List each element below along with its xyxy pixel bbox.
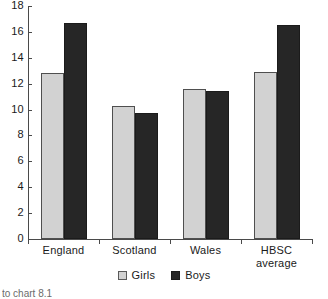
- bar-hbsc-average-girls: [254, 72, 277, 239]
- x-axis-label-wales: Wales: [170, 244, 241, 257]
- square-black-icon: [171, 271, 180, 280]
- bar-scotland-girls: [112, 106, 135, 239]
- bar-england-boys: [64, 23, 87, 239]
- bar-england-girls: [41, 73, 64, 239]
- plot-area: [28, 6, 312, 239]
- y-axis-tick-label: 4: [0, 181, 24, 192]
- y-axis-tick-label: 12: [0, 78, 24, 89]
- y-axis-tick-label: 10: [0, 104, 24, 115]
- legend-label-girls: Girls: [132, 270, 156, 281]
- x-axis-label-line: Scotland: [112, 244, 156, 256]
- y-axis-tick-label: 2: [0, 207, 24, 218]
- bar-wales-girls: [183, 89, 206, 239]
- square-light-gray-icon: [118, 271, 127, 280]
- y-axis-tick-label: 0: [0, 233, 24, 244]
- x-axis-label-scotland: Scotland: [99, 244, 170, 257]
- y-axis-tick-label: 16: [0, 26, 24, 37]
- bar-chart: 024681012141618 EnglandScotlandWalesHBSC…: [0, 0, 328, 299]
- y-axis-tick-label: 8: [0, 129, 24, 140]
- x-axis-label-line: HBSC: [261, 244, 292, 256]
- y-axis-tick-label: 14: [0, 52, 24, 63]
- x-axis-label-england: England: [28, 244, 99, 257]
- x-axis-label-line: Wales: [190, 244, 221, 256]
- y-axis-tick-label: 6: [0, 155, 24, 166]
- bar-scotland-boys: [135, 113, 158, 239]
- x-axis-label-hbsc-average: HBSCaverage: [241, 244, 312, 269]
- legend-label-boys: Boys: [185, 270, 210, 281]
- x-axis-label-line: England: [43, 244, 85, 256]
- legend-item-girls: Girls: [118, 270, 156, 281]
- x-axis-label-line: average: [241, 257, 312, 270]
- figure-caption: to chart 8.1: [2, 288, 52, 299]
- chart-legend: Girls Boys: [0, 270, 328, 281]
- legend-item-boys: Boys: [171, 270, 210, 281]
- y-axis-tick-label: 18: [0, 0, 24, 11]
- x-axis-tick: [312, 239, 313, 244]
- bar-hbsc-average-boys: [277, 25, 300, 239]
- bar-wales-boys: [206, 91, 229, 239]
